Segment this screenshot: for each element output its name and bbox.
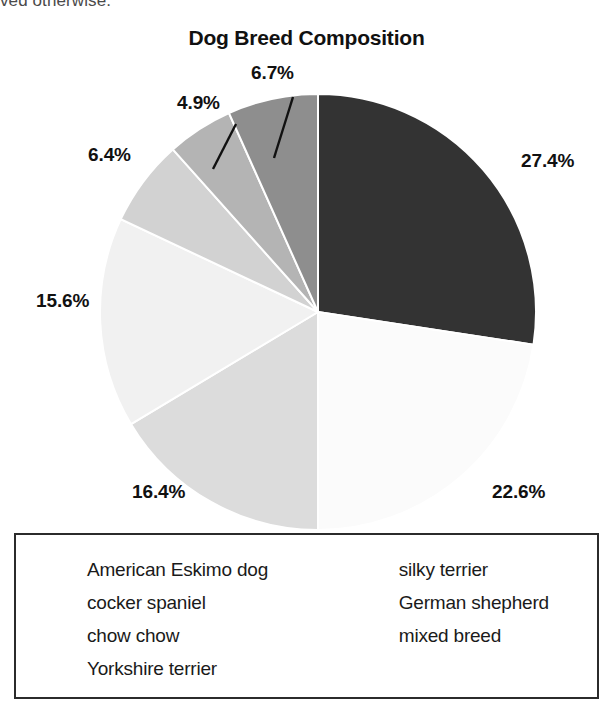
legend-item-label: cocker spaniel	[87, 592, 206, 614]
legend-item-label: mixed breed	[399, 625, 501, 647]
pie-slice-group	[100, 94, 536, 530]
legend-column-left: American Eskimo dog cocker spaniel chow …	[16, 535, 354, 697]
legend-item-mixed-breed: mixed breed	[354, 619, 597, 652]
legend-swatch-icon	[42, 592, 70, 613]
legend-swatch-icon	[42, 625, 70, 646]
pie-chart-svg	[0, 0, 613, 535]
legend-item-label: Yorkshire terrier	[87, 658, 217, 680]
chart-legend: American Eskimo dog cocker spaniel chow …	[14, 533, 599, 699]
pie-chart: 6.7% 4.9% 6.4% 15.6% 16.4% 22.6% 27.4%	[0, 0, 613, 535]
pie-label-german-shepherd: 4.9%	[177, 92, 220, 114]
legend-item-label: silky terrier	[399, 559, 488, 581]
legend-item-label: American Eskimo dog	[87, 559, 268, 581]
pie-label-chow-chow: 16.4%	[132, 481, 185, 503]
pie-label-cocker-spaniel: 22.6%	[492, 481, 545, 503]
legend-item-german-shepherd: German shepherd	[354, 586, 597, 619]
legend-item-chow-chow: chow chow	[42, 619, 354, 652]
legend-swatch-icon	[354, 559, 382, 580]
legend-item-yorkshire-terrier: Yorkshire terrier	[42, 652, 354, 685]
legend-swatch-icon	[354, 625, 382, 646]
legend-item-label: German shepherd	[399, 592, 549, 614]
pie-label-yorkshire-terrier: 15.6%	[36, 290, 89, 312]
pie-label-mixed-breed: 6.7%	[251, 62, 294, 84]
legend-item-label: chow chow	[87, 625, 179, 647]
legend-item-silky-terrier: silky terrier	[354, 553, 597, 586]
pie-label-american-eskimo-dog: 27.4%	[521, 150, 574, 172]
legend-swatch-icon	[42, 658, 70, 679]
legend-item-cocker-spaniel: cocker spaniel	[42, 586, 354, 619]
legend-swatch-icon	[42, 559, 70, 580]
legend-column-right: silky terrier German shepherd mixed bree…	[354, 535, 597, 697]
legend-item-american-eskimo-dog: American Eskimo dog	[42, 553, 354, 586]
legend-swatch-icon	[354, 592, 382, 613]
pie-label-silky-terrier: 6.4%	[88, 144, 131, 166]
pie-slice-american-eskimo-dog	[318, 94, 536, 345]
